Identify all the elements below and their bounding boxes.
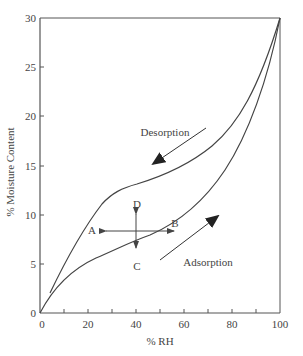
moisture-isotherm-chart: 0 20 40 60 80 100 0 5 10 15 20 25 30 % R… [0, 0, 303, 356]
point-d-label: D [133, 198, 141, 210]
point-a-label: A [88, 224, 96, 236]
y-axis-title: % Moisture Content [4, 127, 16, 216]
desorption-label: Desorption [141, 126, 190, 138]
x-tick-labels: 0 20 40 60 80 100 [39, 318, 289, 330]
adsorption-label: Adsorption [183, 256, 233, 268]
x-tick-label: 60 [179, 318, 191, 330]
y-tick-label: 30 [25, 12, 37, 24]
y-tick-label: 5 [31, 258, 37, 270]
adsorption-curve [40, 18, 280, 313]
x-tick-label: 100 [272, 318, 289, 330]
point-c-label: C [133, 260, 140, 272]
y-tick-label: 20 [25, 110, 37, 122]
x-tick-label: 40 [131, 318, 143, 330]
plot-frame [40, 18, 280, 313]
x-axis-title: % RH [146, 335, 173, 347]
y-tick-label: 10 [25, 209, 37, 221]
y-tick-label: 25 [25, 61, 37, 73]
y-tick-label: 0 [31, 307, 37, 319]
y-tick-label: 15 [25, 160, 37, 172]
point-b-label: B [171, 217, 178, 229]
x-tick-label: 20 [83, 318, 95, 330]
x-tick-label: 80 [227, 318, 239, 330]
adsorption-direction-arrow [160, 216, 218, 260]
x-tick-label: 0 [39, 318, 45, 330]
y-tick-labels: 0 5 10 15 20 25 30 [25, 12, 37, 319]
